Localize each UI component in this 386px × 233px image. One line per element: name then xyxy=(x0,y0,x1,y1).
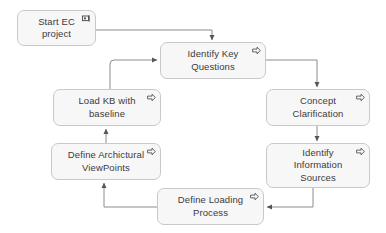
node-load-kb-with-baseline-label: Load KB with baseline xyxy=(71,95,142,120)
process-arrow-icon xyxy=(147,147,156,156)
process-arrow-icon xyxy=(252,46,261,55)
process-arrow-icon xyxy=(147,93,156,102)
edge-questions-to-concept xyxy=(266,60,317,87)
start-flag-icon xyxy=(82,14,91,23)
edge-sources-to-loading xyxy=(267,188,313,207)
process-arrow-icon xyxy=(356,93,365,102)
node-define-archictural-viewpoints[interactable]: Define Archictural ViewPoints xyxy=(51,143,161,180)
node-define-loading-process-label: Define Loading Process xyxy=(171,194,250,219)
node-concept-clarification[interactable]: Concept Clarification xyxy=(266,89,370,126)
node-start-ec-project[interactable]: Start EC project xyxy=(17,10,96,46)
process-arrow-icon xyxy=(250,192,259,201)
node-define-loading-process[interactable]: Define Loading Process xyxy=(157,188,264,225)
node-identify-information-sources[interactable]: Identify Information Sources xyxy=(266,143,370,188)
node-identify-key-questions[interactable]: Identify Key Questions xyxy=(160,42,266,79)
node-start-ec-project-label: Start EC project xyxy=(31,16,82,41)
node-load-kb-with-baseline[interactable]: Load KB with baseline xyxy=(53,89,161,126)
edge-start-to-questions xyxy=(96,30,212,40)
node-define-archictural-viewpoints-label: Define Archictural ViewPoints xyxy=(61,149,151,174)
node-concept-clarification-label: Concept Clarification xyxy=(286,95,351,120)
edge-loadkb-to-questions xyxy=(110,60,157,89)
flowchart-diagram: Start EC project Identify Key Questions … xyxy=(0,0,386,233)
process-arrow-icon xyxy=(356,147,365,156)
node-identify-key-questions-label: Identify Key Questions xyxy=(181,48,246,73)
node-identify-information-sources-label: Identify Information Sources xyxy=(287,147,350,185)
edge-loading-to-viewpoints xyxy=(104,183,157,207)
